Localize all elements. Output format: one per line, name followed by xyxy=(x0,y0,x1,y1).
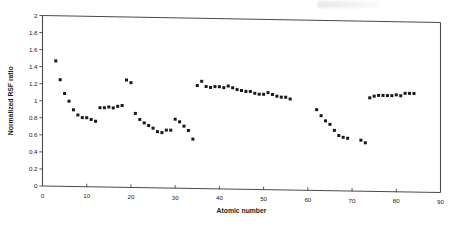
data-point xyxy=(412,92,415,95)
data-point xyxy=(125,79,128,82)
data-point xyxy=(209,86,212,89)
plot-frame xyxy=(43,16,441,193)
data-point xyxy=(63,92,66,95)
data-point xyxy=(160,131,163,134)
x-axis-line xyxy=(43,186,441,193)
data-point xyxy=(404,92,407,95)
x-tick-label: 80 xyxy=(393,197,400,204)
data-point xyxy=(395,93,398,96)
data-point xyxy=(134,112,137,115)
data-point xyxy=(390,94,393,97)
y-tick-label: 1.6 xyxy=(29,46,38,53)
data-point xyxy=(191,138,194,141)
data-point xyxy=(187,129,190,132)
data-point xyxy=(280,96,283,99)
data-point xyxy=(213,85,216,88)
data-point xyxy=(72,108,75,111)
scatter-plot: 00.20.40.60.811.21.41.61.820102030405060… xyxy=(0,0,451,231)
data-point xyxy=(112,106,115,109)
data-point xyxy=(85,116,88,119)
data-point xyxy=(152,127,155,130)
data-point xyxy=(320,114,323,117)
data-point xyxy=(267,91,270,94)
data-point xyxy=(408,92,411,95)
data-point xyxy=(196,84,199,87)
data-point xyxy=(76,113,79,116)
data-point xyxy=(231,86,234,89)
data-point xyxy=(315,108,318,111)
y-tick-label: 1.8 xyxy=(29,29,38,36)
data-point xyxy=(382,94,385,97)
x-tick-label: 70 xyxy=(349,197,356,204)
data-point xyxy=(346,137,349,140)
data-point xyxy=(200,80,203,83)
y-tick-label: 0.8 xyxy=(29,114,38,121)
data-point xyxy=(68,100,71,103)
data-point xyxy=(54,59,57,62)
data-point xyxy=(342,136,345,139)
data-point xyxy=(138,118,141,121)
data-point xyxy=(328,123,331,126)
data-point xyxy=(364,141,367,144)
data-series xyxy=(54,59,415,144)
data-point xyxy=(121,104,124,107)
data-point xyxy=(183,125,186,128)
x-tick-label: 50 xyxy=(260,195,267,202)
data-point xyxy=(284,96,287,99)
data-point xyxy=(90,118,93,121)
y-tick-label: 1.2 xyxy=(29,80,38,87)
y-tick-label: 0.2 xyxy=(29,165,38,172)
y-axis-title: Normalized RSF ratio xyxy=(7,66,14,135)
data-point xyxy=(244,90,247,93)
data-point xyxy=(249,90,252,93)
x-tick-label: 60 xyxy=(304,196,311,203)
data-point xyxy=(236,88,239,91)
data-point xyxy=(169,129,172,132)
data-point xyxy=(59,78,62,81)
data-point xyxy=(165,129,168,132)
data-point xyxy=(337,134,340,137)
data-point xyxy=(143,121,146,124)
data-point xyxy=(368,96,371,99)
data-point xyxy=(116,105,119,108)
data-point xyxy=(98,106,101,109)
data-point xyxy=(218,85,221,88)
y-tick-label: 1 xyxy=(34,97,38,104)
y-tick-label: 0.6 xyxy=(29,131,38,138)
y-tick-label: 1.4 xyxy=(29,63,38,70)
y-tick-label: 0 xyxy=(34,182,38,189)
data-point xyxy=(103,106,106,109)
x-tick-label: 20 xyxy=(127,193,134,200)
y-axis: 00.20.40.60.811.21.41.61.82 xyxy=(29,12,43,190)
data-point xyxy=(333,129,336,132)
data-point xyxy=(178,120,181,123)
y-tick-label: 2 xyxy=(34,12,38,19)
data-point xyxy=(227,85,230,88)
data-point xyxy=(359,139,362,142)
data-point xyxy=(275,95,278,98)
data-point xyxy=(107,105,110,108)
y-tick-label: 0.4 xyxy=(29,148,38,155)
data-point xyxy=(147,124,150,127)
data-point xyxy=(174,118,177,121)
plot-top-border xyxy=(43,16,441,23)
data-point xyxy=(258,93,261,96)
data-point xyxy=(386,94,389,97)
data-point xyxy=(373,95,376,98)
data-point xyxy=(253,92,256,95)
data-point xyxy=(324,119,327,122)
data-point xyxy=(205,85,208,88)
data-point xyxy=(289,97,292,100)
x-tick-label: 90 xyxy=(437,198,444,205)
data-point xyxy=(81,116,84,119)
data-point xyxy=(271,93,274,96)
data-point xyxy=(222,86,225,89)
scan-artifact xyxy=(318,1,380,8)
data-point xyxy=(377,94,380,97)
data-point xyxy=(129,81,132,84)
data-point xyxy=(399,94,402,97)
data-point xyxy=(262,93,265,96)
x-tick-label: 40 xyxy=(216,194,223,201)
x-axis-title: Atomic number xyxy=(217,207,267,214)
data-point xyxy=(156,130,159,133)
